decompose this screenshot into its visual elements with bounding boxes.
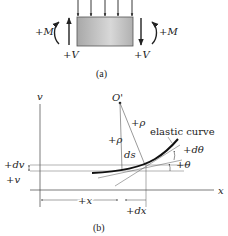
right-moment-arrow-icon: [152, 22, 157, 44]
ds-label: ds: [124, 149, 136, 160]
tangent-line-1: [98, 160, 182, 178]
beam-segment: [77, 17, 133, 46]
elastic-curve-label: elastic curve: [150, 126, 215, 137]
left-moment-label: +M: [35, 26, 54, 37]
curve-label-leader: [168, 137, 172, 143]
v-axis-label: v: [37, 91, 43, 102]
figure-a: +M +M +V +V (a): [35, 0, 178, 80]
dx-dim-label: +dx: [126, 205, 147, 216]
dtheta-label: +dθ: [183, 144, 204, 155]
v-label: +v: [6, 174, 20, 185]
theta-label: +θ: [176, 159, 190, 170]
right-moment-label: +M: [159, 26, 178, 37]
right-shear-label: +V: [134, 49, 151, 60]
figure-b: v x +dv +v O' +ρ +ρ ds elastic curve +dθ…: [4, 91, 224, 234]
x-dim-label: +x: [78, 195, 92, 206]
left-moment-arrow-icon: [55, 22, 60, 44]
beam-deflection-diagram: +M +M +V +V (a) v x +dv +v O' +ρ +ρ ds: [0, 0, 228, 236]
center-label: O': [112, 92, 123, 103]
distributed-load-arrows: [78, 0, 132, 16]
dtheta-arc-icon: [174, 151, 175, 160]
x-axis-label: x: [218, 185, 224, 196]
left-shear-label: +V: [63, 49, 80, 60]
caption-a: (a): [96, 68, 107, 80]
rho-label-2: +ρ: [131, 117, 145, 128]
rho-label-1: +ρ: [108, 134, 122, 145]
dv-label: +dv: [4, 159, 25, 170]
caption-b: (b): [93, 222, 105, 234]
